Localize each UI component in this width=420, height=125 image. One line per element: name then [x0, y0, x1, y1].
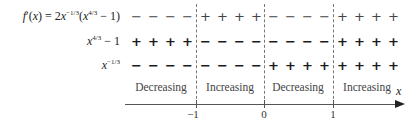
sign-cell: −−−− — [131, 10, 193, 24]
interval-label-3: Decreasing — [265, 81, 331, 93]
x-axis-line — [125, 104, 397, 105]
sign-cell: −−−− — [200, 35, 262, 49]
sign-cell: ++++ — [337, 59, 399, 73]
interval-label-1: Decreasing — [128, 81, 194, 93]
sign-cell: −−−− — [200, 59, 262, 73]
tick-neg1 — [196, 100, 197, 108]
tick-label-neg1: −1 — [187, 108, 199, 120]
axis-variable-label: x — [396, 84, 401, 99]
sign-cell: −−−− — [268, 10, 330, 24]
tick-1 — [333, 100, 334, 108]
row-label-x43-minus-1: x4/3 − 1 — [87, 34, 120, 49]
sign-cell: ++++ — [337, 10, 399, 24]
sign-cell: ++++ — [200, 10, 262, 24]
sign-cell: ++++ — [268, 59, 330, 73]
sign-cell: −−−− — [131, 59, 193, 73]
sign-cell: ++++ — [131, 35, 193, 49]
row-label-fprime: f′(x) = 2x−1/3(x4/3 − 1) — [23, 9, 120, 24]
tick-label-1: 1 — [330, 108, 336, 120]
tick-label-0: 0 — [261, 108, 267, 120]
tick-0 — [264, 100, 265, 108]
sign-cell: −−−− — [268, 35, 330, 49]
sign-cell: ++++ — [337, 35, 399, 49]
interval-label-2: Increasing — [197, 81, 263, 93]
x-axis-arrow-icon — [395, 100, 405, 108]
row-label-x-neg13: x−1/3 — [102, 58, 120, 73]
interval-label-4: Increasing — [334, 81, 400, 93]
